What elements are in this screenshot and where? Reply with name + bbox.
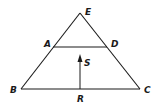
label-S: S bbox=[84, 58, 90, 68]
label-E: E bbox=[85, 7, 92, 17]
label-A: A bbox=[43, 39, 51, 49]
segment-EC bbox=[80, 13, 140, 89]
label-C: C bbox=[144, 85, 151, 95]
triangle-diagram: E A D S B C R bbox=[0, 0, 160, 109]
segment-EB bbox=[21, 13, 80, 89]
label-B: B bbox=[10, 85, 17, 95]
label-D: D bbox=[111, 39, 119, 49]
arrowhead-icon bbox=[78, 54, 83, 62]
label-R: R bbox=[77, 94, 84, 104]
